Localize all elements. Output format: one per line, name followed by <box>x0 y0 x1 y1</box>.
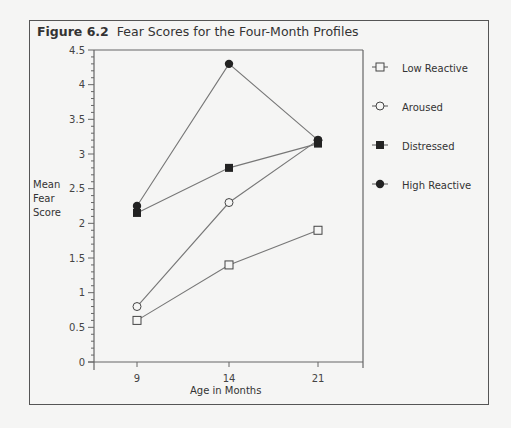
y-axis-label-line: Fear <box>33 192 61 206</box>
legend-label: High Reactive <box>402 180 471 191</box>
y-axis-label-line: Score <box>33 206 61 220</box>
y-tick-label: 0.5 <box>69 322 85 333</box>
y-tick-label: 0 <box>79 357 85 368</box>
y-tick-label: 2.5 <box>69 183 85 194</box>
data-point-high-reactive <box>314 136 322 144</box>
data-point-distressed <box>225 164 233 172</box>
legend-label: Distressed <box>402 141 455 152</box>
data-point-low-reactive <box>225 261 233 269</box>
y-tick-label: 4 <box>79 79 85 90</box>
y-tick-label: 2 <box>79 218 85 229</box>
data-point-high-reactive <box>133 202 141 210</box>
y-tick-label: 4.5 <box>69 45 85 56</box>
y-tick-label: 1.5 <box>69 253 85 264</box>
legend-item-aroused: Aroused <box>402 102 443 113</box>
x-axis-label: Age in Months <box>190 385 261 396</box>
data-point-high-reactive <box>225 60 233 68</box>
legend-item-distressed: Distressed <box>402 141 455 152</box>
y-tick-label: 3.5 <box>69 114 85 125</box>
open-square-icon <box>376 63 384 71</box>
x-tick-label: 21 <box>312 373 325 384</box>
data-point-low-reactive <box>133 316 141 324</box>
y-axis-label: Mean Fear Score <box>33 178 61 220</box>
y-tick-label: 1 <box>79 287 85 298</box>
legend-item-high-reactive: High Reactive <box>402 180 471 191</box>
legend-label: Aroused <box>402 102 443 113</box>
series-line-high-reactive <box>137 64 318 206</box>
y-axis-label-line: Mean <box>33 178 61 192</box>
y-tick-label: 3 <box>79 149 85 160</box>
legend-item-low-reactive: Low Reactive <box>402 63 468 74</box>
filled-square-icon <box>376 141 384 149</box>
x-tick-label: 9 <box>134 373 140 384</box>
data-point-aroused <box>225 199 233 207</box>
data-point-low-reactive <box>314 226 322 234</box>
data-point-aroused <box>133 303 141 311</box>
filled-circle-icon <box>376 180 384 188</box>
open-circle-icon <box>376 102 384 110</box>
x-tick-label: 14 <box>223 373 236 384</box>
legend-label: Low Reactive <box>402 63 468 74</box>
